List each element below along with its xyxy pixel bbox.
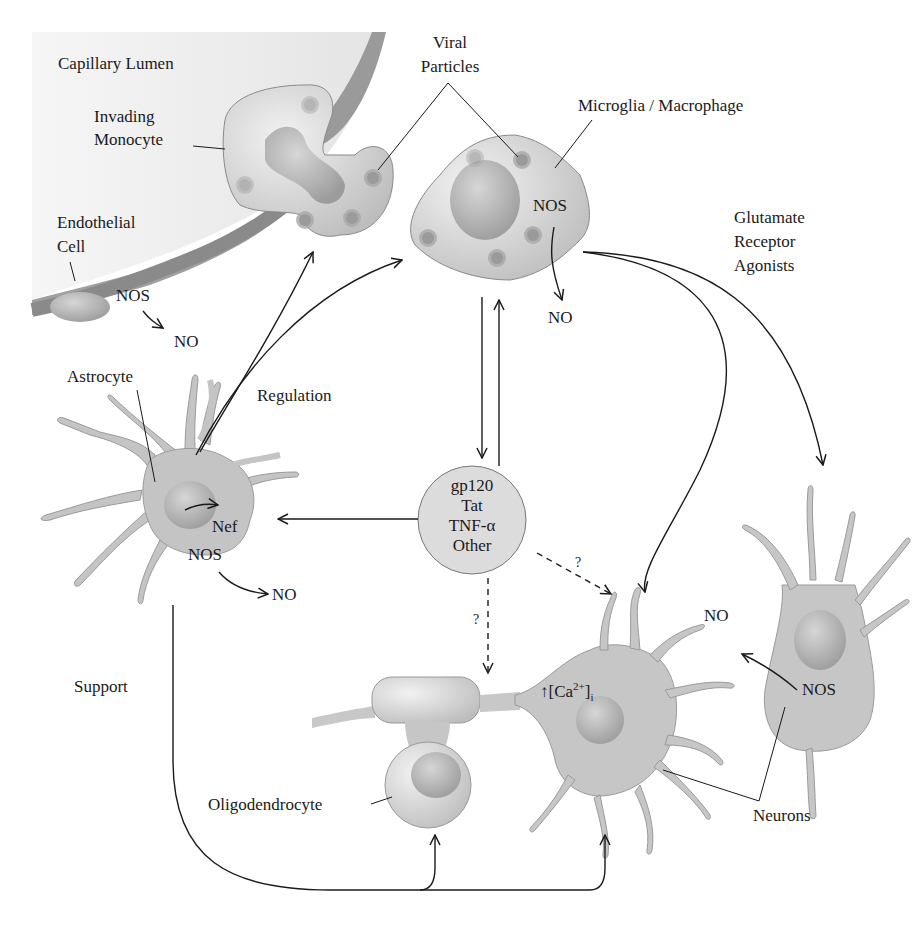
label-capillary-lumen: Capillary Lumen bbox=[58, 54, 174, 74]
arrow-support bbox=[173, 605, 435, 890]
label-calcium: ↑[Ca2+]i bbox=[540, 676, 594, 707]
microglia-nucleus bbox=[450, 160, 520, 240]
factor-tat: Tat bbox=[432, 496, 512, 516]
label-pyramidal-no: NO bbox=[704, 606, 729, 626]
label-viral-particles-1: Viral bbox=[410, 33, 490, 53]
label-microglia-macrophage: Microglia / Macrophage bbox=[578, 96, 743, 116]
label-astrocyte-no: NO bbox=[272, 585, 297, 605]
arrow-microglia-to-pyramidal bbox=[583, 252, 823, 465]
dashed-arrow-factors-to-neuron bbox=[537, 553, 611, 594]
label-astrocyte-nef: Nef bbox=[212, 517, 237, 537]
leader-viral-left bbox=[378, 83, 448, 170]
label-regulation: Regulation bbox=[257, 386, 332, 406]
endothelial-nucleus bbox=[50, 292, 110, 322]
myelin-sheath bbox=[372, 677, 480, 723]
label-question-right: ? bbox=[575, 553, 581, 573]
label-glutamate-1: Glutamate bbox=[734, 208, 805, 228]
calcium-up-arrow: ↑ bbox=[540, 682, 549, 701]
central-factors-text: gp120 Tat TNF-α Other bbox=[432, 476, 512, 556]
neuron-pyramidal-nucleus bbox=[794, 610, 846, 670]
label-oligodendrocyte: Oligodendrocyte bbox=[208, 795, 322, 815]
label-support: Support bbox=[74, 677, 128, 697]
arrow-endothelial-nos-to-no bbox=[143, 311, 163, 328]
leader-microglia bbox=[555, 120, 592, 168]
arrow-astrocyte-to-microglia bbox=[196, 260, 402, 455]
label-microglia-nos: NOS bbox=[533, 196, 567, 216]
arrow-astrocyte-nos-to-no bbox=[219, 572, 268, 594]
label-endothelial-cell-1: Endothelial bbox=[57, 213, 135, 233]
neuron-multipolar bbox=[515, 587, 734, 858]
label-glutamate-2: Receptor bbox=[734, 232, 795, 252]
label-invading-monocyte-1: Invading bbox=[94, 107, 154, 127]
label-endothelial-cell-2: Cell bbox=[57, 237, 85, 257]
label-viral-particles-2: Particles bbox=[410, 57, 490, 77]
label-question-down: ? bbox=[473, 610, 479, 630]
label-glutamate-3: Agonists bbox=[734, 256, 794, 276]
oligodendrocyte bbox=[312, 677, 520, 828]
arrow-support-to-neuron bbox=[420, 835, 605, 890]
label-endothelial-nos: NOS bbox=[116, 286, 150, 306]
arrow-microglia-to-multipolar bbox=[583, 252, 726, 592]
factor-gp120: gp120 bbox=[432, 476, 512, 496]
label-pyramidal-nos: NOS bbox=[802, 680, 836, 700]
label-astrocyte: Astrocyte bbox=[67, 367, 133, 387]
label-microglia-no: NO bbox=[548, 308, 573, 328]
label-endothelial-no: NO bbox=[174, 332, 199, 352]
arrow-astrocyte-to-monocyte bbox=[200, 252, 313, 452]
factor-tnf-alpha: TNF-α bbox=[432, 516, 512, 536]
factor-other: Other bbox=[432, 536, 512, 556]
label-invading-monocyte-2: Monocyte bbox=[94, 130, 163, 150]
label-neurons: Neurons bbox=[753, 806, 811, 826]
oligodendrocyte-nucleus bbox=[411, 752, 461, 798]
astrocyte bbox=[41, 375, 299, 604]
label-astrocyte-nos: NOS bbox=[188, 545, 222, 565]
axon bbox=[312, 706, 375, 728]
